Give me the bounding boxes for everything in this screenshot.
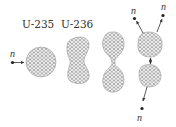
- fission-fragments: [138, 32, 162, 87]
- arrow-icon: [143, 87, 147, 101]
- neutron-label: n: [161, 1, 166, 12]
- emitted-neutron-top-left: n: [131, 5, 143, 33]
- neutron-dot-icon: [161, 14, 164, 17]
- fragment-bottom: [139, 64, 161, 87]
- u235-label: U-235: [22, 18, 54, 30]
- fission-diagram: U-235 U-236 n n n n: [0, 0, 176, 127]
- incoming-neutron: n: [10, 48, 24, 64]
- emitted-neutron-bottom: n: [137, 87, 147, 123]
- neutron-dot-icon: [11, 61, 14, 64]
- arrow-icon: [157, 19, 162, 32]
- neutron-label: n: [10, 48, 15, 59]
- neutron-label: n: [137, 112, 142, 123]
- u235-nucleus: [26, 47, 56, 77]
- emitted-neutron-top-right: n: [157, 1, 166, 32]
- neutron-dot-icon: [140, 107, 143, 110]
- u236-label: U-236: [61, 18, 94, 30]
- fragment-top: [138, 32, 162, 57]
- arrow-icon: [137, 21, 144, 33]
- necked-nucleus: [103, 32, 124, 92]
- u236-nucleus: [67, 37, 89, 84]
- neutron-label: n: [131, 5, 136, 16]
- neutron-dot-icon: [133, 17, 136, 20]
